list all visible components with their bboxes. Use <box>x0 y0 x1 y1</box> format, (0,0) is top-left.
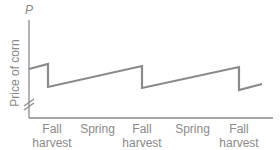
x-tick-fall-harvest-2: Fall harvest <box>122 122 162 150</box>
x-tick-line1: Fall <box>32 122 72 136</box>
y-axis-symbol: P <box>25 3 33 17</box>
x-tick-line1: Spring <box>75 122 120 136</box>
x-tick-line2: harvest <box>122 136 162 150</box>
x-tick-fall-harvest-3: Fall harvest <box>219 122 259 150</box>
y-axis-title: Price of corn <box>8 38 22 108</box>
price-line <box>29 64 262 90</box>
x-tick-spring-2: Spring <box>170 122 215 136</box>
x-tick-spring-1: Spring <box>75 122 120 136</box>
x-tick-line1: Spring <box>170 122 215 136</box>
x-tick-line2: harvest <box>219 136 259 150</box>
x-tick-line1: Fall <box>219 122 259 136</box>
x-tick-line1: Fall <box>122 122 162 136</box>
x-tick-line2: harvest <box>32 136 72 150</box>
x-tick-fall-harvest-1: Fall harvest <box>32 122 72 150</box>
